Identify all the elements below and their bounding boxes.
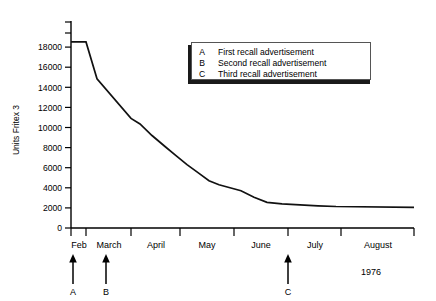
x-tick-label-april: April (147, 240, 165, 250)
arrow-head (102, 254, 110, 263)
y-axis-ticks (65, 22, 71, 228)
y-tick-label: 12000 (38, 103, 62, 113)
marker-label-a: A (70, 287, 76, 297)
legend-label-c: Third recall advertisement (218, 69, 317, 79)
x-tick-label-july: July (307, 240, 324, 250)
y-tick-label: 4000 (43, 183, 62, 193)
x-axis-tick-labels: Feb March April May June July August (71, 240, 392, 250)
marker-label-b: B (103, 287, 109, 297)
x-tick-label-feb: Feb (71, 240, 87, 250)
year-label: 1976 (361, 267, 381, 277)
line-chart-canvas: Units Fritex 3 0 2000 4000 6000 8000 (0, 0, 436, 301)
arrow-head (69, 254, 77, 263)
chart-figure: Units Fritex 3 0 2000 4000 6000 8000 (0, 0, 436, 301)
y-tick-label: 10000 (38, 123, 62, 133)
legend-key-c: C (199, 69, 205, 79)
y-tick-label: 2000 (43, 203, 62, 213)
marker-arrow-c: C (284, 254, 292, 297)
x-axis-ticks (71, 228, 414, 236)
y-axis-tick-labels: 0 2000 4000 6000 8000 10000 12000 14000 … (38, 42, 62, 233)
arrow-head (284, 254, 292, 263)
y-tick-label: 18000 (38, 42, 62, 52)
y-tick-label: 6000 (43, 163, 62, 173)
x-tick-label-may: May (198, 240, 216, 250)
marker-arrow-a: A (69, 254, 77, 297)
marker-label-c: C (285, 287, 292, 297)
x-tick-label-march: March (96, 240, 121, 250)
legend-key-a: A (199, 47, 205, 57)
x-tick-label-june: June (251, 240, 271, 250)
legend-label-a: First recall advertisement (218, 47, 315, 57)
legend-key-b: B (199, 58, 205, 68)
y-tick-label: 0 (57, 223, 62, 233)
legend: A First recall advertisement B Second re… (188, 43, 371, 85)
y-tick-label: 8000 (43, 143, 62, 153)
y-axis-title: Units Fritex 3 (11, 105, 21, 155)
y-tick-label: 16000 (38, 62, 62, 72)
x-tick-label-august: August (364, 240, 393, 250)
marker-arrow-b: B (102, 254, 110, 297)
legend-label-b: Second recall advertisement (218, 58, 327, 68)
y-tick-label: 14000 (38, 83, 62, 93)
